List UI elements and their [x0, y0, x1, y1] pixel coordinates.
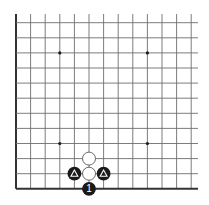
black-stone-triangle-marked[interactable]	[97, 167, 111, 181]
star-point	[146, 51, 149, 54]
board-grid	[16, 14, 198, 189]
black-stone-numbered[interactable]: 1	[82, 182, 96, 196]
move-number-label: 1	[86, 183, 92, 194]
black-stone-triangle-marked[interactable]	[68, 167, 82, 181]
black-stone-icon	[68, 167, 82, 181]
white-stone-icon	[83, 152, 96, 165]
white-stone[interactable]	[83, 167, 96, 180]
star-point	[58, 142, 61, 145]
star-point	[146, 142, 149, 145]
go-board: 1	[0, 0, 209, 205]
star-point	[58, 51, 61, 54]
white-stone[interactable]	[83, 152, 96, 165]
white-stone-icon	[83, 167, 96, 180]
black-stone-icon	[97, 167, 111, 181]
